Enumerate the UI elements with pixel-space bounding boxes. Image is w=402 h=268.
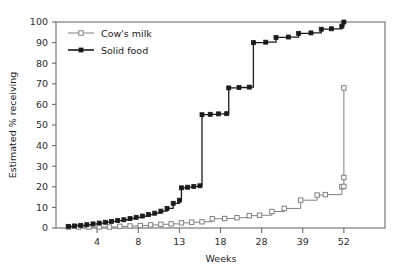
data-point-marker	[342, 86, 346, 90]
data-point-marker	[270, 209, 274, 213]
data-point-marker	[319, 27, 323, 31]
data-point-marker	[235, 216, 239, 220]
data-point-marker	[153, 211, 157, 215]
x-tick-label: 52	[338, 236, 350, 247]
data-point-marker	[315, 193, 319, 197]
legend-label: Solid food	[101, 45, 148, 56]
y-tick-label: 20	[36, 181, 48, 192]
data-point-marker	[227, 86, 231, 90]
series-line	[68, 88, 344, 227]
data-point-marker	[251, 41, 255, 45]
data-point-marker	[237, 86, 241, 90]
data-point-marker	[323, 192, 327, 196]
data-point-marker	[103, 220, 107, 224]
data-point-marker	[140, 214, 144, 218]
data-point-marker	[138, 223, 142, 227]
y-tick-label: 80	[36, 58, 48, 69]
data-point-marker	[73, 224, 77, 228]
data-point-marker	[342, 20, 346, 24]
chart-figure: 0102030405060708090100 481318283952 Cow'…	[0, 0, 402, 268]
x-tick-label: 4	[94, 236, 100, 247]
data-point-marker	[147, 213, 151, 217]
data-point-marker	[208, 112, 212, 116]
data-point-marker	[116, 219, 120, 223]
data-point-marker	[298, 198, 302, 202]
chart-canvas: 0102030405060708090100 481318283952 Cow'…	[0, 0, 402, 268]
y-tick-label: 10	[36, 202, 48, 213]
data-point-marker	[190, 220, 194, 224]
y-tick-label: 30	[36, 161, 48, 172]
x-tick-label: 28	[256, 236, 268, 247]
data-point-marker	[225, 112, 229, 116]
data-point-marker	[186, 185, 190, 189]
y-tick-label: 40	[36, 140, 48, 151]
x-tick-label: 39	[297, 236, 309, 247]
y-tick-label: 100	[30, 16, 48, 27]
x-tick-label: 18	[214, 236, 226, 247]
y-axis-ticks: 0102030405060708090100	[30, 16, 56, 233]
legend-item-0: Cow's milk	[68, 28, 152, 39]
data-point-marker	[297, 31, 301, 35]
data-point-marker	[171, 201, 175, 205]
legend-marker-open-square	[79, 31, 83, 35]
data-point-marker	[340, 24, 344, 28]
data-point-marker	[169, 222, 173, 226]
y-tick-label: 90	[36, 37, 48, 48]
x-axis-ticks: 481318283952	[94, 228, 350, 247]
data-point-marker	[222, 216, 226, 220]
data-point-marker	[192, 184, 196, 188]
x-axis-title: Weeks	[206, 253, 237, 264]
data-point-marker	[85, 223, 89, 227]
legend-label: Cow's milk	[101, 28, 152, 39]
data-point-marker	[179, 221, 183, 225]
data-point-marker	[97, 221, 101, 225]
data-point-marker	[247, 85, 251, 89]
y-tick-label: 0	[42, 222, 48, 233]
data-point-marker	[122, 218, 126, 222]
data-point-marker	[282, 206, 286, 210]
y-tick-label: 50	[36, 119, 48, 130]
series-cow-s-milk	[66, 86, 346, 229]
legend-marker-filled-square	[79, 48, 83, 52]
y-tick-label: 60	[36, 99, 48, 110]
data-point-marker	[264, 40, 268, 44]
data-point-marker	[274, 35, 278, 39]
data-point-marker	[118, 224, 122, 228]
data-point-marker	[257, 213, 261, 217]
data-point-marker	[198, 184, 202, 188]
data-point-marker	[159, 222, 163, 226]
data-point-marker	[110, 219, 114, 223]
data-point-marker	[247, 213, 251, 217]
data-point-marker	[134, 215, 138, 219]
data-point-marker	[309, 31, 313, 35]
data-point-marker	[128, 224, 132, 228]
data-point-marker	[165, 206, 169, 210]
data-point-marker	[216, 112, 220, 116]
data-point-marker	[210, 217, 214, 221]
data-point-marker	[342, 175, 346, 179]
x-tick-label: 8	[135, 236, 141, 247]
data-point-marker	[342, 184, 346, 188]
data-point-marker	[177, 198, 181, 202]
data-point-marker	[79, 223, 83, 227]
data-point-marker	[179, 186, 183, 190]
data-point-marker	[91, 222, 95, 226]
data-point-marker	[330, 27, 334, 31]
y-tick-label: 70	[36, 78, 48, 89]
data-point-marker	[286, 35, 290, 39]
data-point-marker	[107, 225, 111, 229]
data-point-marker	[128, 217, 132, 221]
y-axis-title: Estimated % receiving	[7, 72, 18, 179]
x-tick-label: 13	[173, 236, 185, 247]
legend-item-1: Solid food	[68, 45, 148, 56]
data-point-marker	[200, 220, 204, 224]
data-point-marker	[200, 113, 204, 117]
data-point-marker	[148, 223, 152, 227]
data-point-marker	[66, 224, 70, 228]
data-point-marker	[159, 209, 163, 213]
chart-legend: Cow's milkSolid food	[68, 28, 152, 56]
